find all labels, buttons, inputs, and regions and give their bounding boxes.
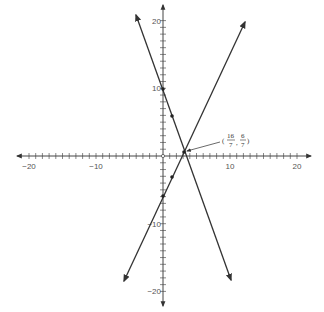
- svg-text:6: 6: [241, 132, 245, 140]
- point-1-6: [170, 114, 174, 118]
- y-tick-label: −20: [147, 287, 161, 296]
- line-1: [136, 15, 231, 280]
- point-0-neg6: [161, 194, 165, 198]
- x-tick-label: −10: [89, 162, 103, 171]
- svg-text:7: 7: [229, 141, 233, 149]
- intersection-point: [182, 150, 186, 154]
- coordinate-plane: −20−101020 2010−10−20 ( 16 7 , 6 7 ): [0, 0, 324, 312]
- intersection-label: ( 16 7 , 6 7 ): [222, 132, 250, 149]
- svg-text:,: ,: [236, 139, 238, 147]
- point-0-10: [161, 87, 165, 91]
- point-1-neg3: [170, 175, 174, 179]
- x-tick-label: 20: [293, 162, 302, 171]
- svg-text:): ): [247, 137, 250, 145]
- y-tick-label: 10: [152, 84, 161, 93]
- origin-marker: [161, 154, 164, 157]
- svg-text:16: 16: [227, 132, 235, 140]
- y-tick-label: 20: [152, 17, 161, 26]
- svg-text:7: 7: [241, 141, 245, 149]
- svg-text:(: (: [222, 137, 225, 145]
- annotation-leader: [187, 142, 220, 151]
- x-tick-label: 10: [226, 162, 235, 171]
- x-tick-label: −20: [22, 162, 36, 171]
